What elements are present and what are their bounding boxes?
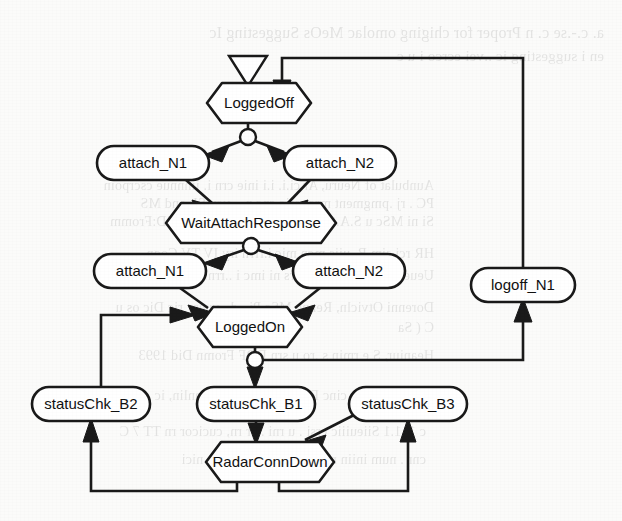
action-attach-n1-lower[interactable]: attach_N1 bbox=[94, 254, 206, 288]
state-loggedoff[interactable]: LoggedOff bbox=[207, 83, 311, 123]
edge-statuschk-b2-to-loggedon bbox=[101, 315, 183, 387]
junction-1 bbox=[240, 129, 256, 145]
action-statuschk-b2[interactable]: statusChk_B2 bbox=[32, 387, 150, 421]
edge-attach-n2-upper-to-wait bbox=[288, 180, 310, 203]
start-triangle-icon bbox=[229, 56, 267, 86]
edge-attach-n2-lower-to-loggedon bbox=[295, 288, 320, 308]
attach-n2-lower-label: attach_N2 bbox=[315, 262, 383, 279]
radarconndown-label: RadarConnDown bbox=[212, 453, 327, 470]
action-statuschk-b3[interactable]: statusChk_B3 bbox=[349, 387, 467, 421]
attach-n2-upper-label: attach_N2 bbox=[306, 154, 374, 171]
loggedoff-label: LoggedOff bbox=[224, 94, 295, 111]
attach-n1-upper-label: attach_N1 bbox=[119, 154, 187, 171]
action-attach-n1-upper[interactable]: attach_N1 bbox=[97, 146, 209, 180]
statuschk-b2-label: statusChk_B2 bbox=[44, 395, 137, 412]
logoff-n1-label: logoff_N1 bbox=[491, 276, 555, 293]
action-logoff-n1[interactable]: logoff_N1 bbox=[471, 268, 575, 302]
statuschk-b1-label: statusChk_B1 bbox=[209, 395, 302, 412]
junction-3 bbox=[247, 352, 263, 368]
junction-2 bbox=[243, 238, 259, 254]
edge-statuschk-b3-to-radarconndown bbox=[305, 414, 356, 440]
action-attach-n2-lower[interactable]: attach_N2 bbox=[293, 254, 405, 288]
action-statuschk-b1[interactable]: statusChk_B1 bbox=[197, 387, 315, 421]
state-diagram: LoggedOff attach_N1 attach_N2 WaitAttach… bbox=[0, 0, 622, 521]
action-attach-n2-upper[interactable]: attach_N2 bbox=[284, 146, 396, 180]
edge-attach-n1-lower-to-loggedon bbox=[180, 288, 208, 308]
scanned-page: a. c.-.se c. n Proper for chiging omolac… bbox=[0, 0, 622, 521]
edge-attach-n1-upper-to-wait bbox=[186, 180, 212, 203]
state-loggedon[interactable]: LoggedOn bbox=[198, 307, 302, 347]
loggedon-label: LoggedOn bbox=[215, 318, 285, 335]
state-radarconndown[interactable]: RadarConnDown bbox=[206, 442, 334, 482]
statuschk-b3-label: statusChk_B3 bbox=[361, 395, 454, 412]
edge-junction3-to-logoff bbox=[263, 318, 523, 360]
attach-n1-lower-label: attach_N1 bbox=[116, 262, 184, 279]
waitattachresponse-label: WaitAttachResponse bbox=[181, 214, 321, 231]
